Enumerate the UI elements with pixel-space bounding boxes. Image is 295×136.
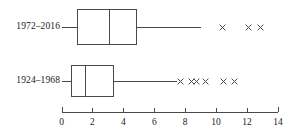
outlier-x-marker	[177, 78, 184, 85]
axis-tick-12	[247, 108, 248, 112]
whisker-right-2	[114, 81, 177, 82]
outlier-x-marker	[231, 78, 238, 85]
axis-tick-6	[154, 108, 155, 112]
box-2	[71, 65, 114, 97]
axis-tick-label-2: 2	[82, 117, 102, 127]
outlier-x-marker	[219, 24, 226, 31]
median-line-2	[85, 65, 86, 97]
outlier-x-marker	[202, 78, 209, 85]
axis-tick-label-4: 4	[113, 117, 133, 127]
whisker-right-1	[137, 27, 200, 28]
category-label-1972-2016: 1972–2016	[8, 21, 60, 31]
axis-tick-label-14: 14	[268, 117, 288, 127]
boxplot-chart: 1972–2016 1924–1968 02468101214	[0, 0, 295, 136]
median-line-1	[109, 9, 110, 45]
axis-tick-0	[62, 107, 63, 112]
axis-tick-2	[92, 108, 93, 112]
box-1	[77, 9, 137, 45]
outlier-x-marker	[245, 24, 252, 31]
outlier-x-marker	[220, 78, 227, 85]
axis-tick-label-8: 8	[175, 117, 195, 127]
axis-tick-label-10: 10	[206, 117, 226, 127]
axis-tick-8	[185, 108, 186, 112]
axis-tick-4	[123, 108, 124, 112]
label-connector-1	[62, 27, 77, 28]
axis-tick-label-12: 12	[237, 117, 257, 127]
outlier-x-marker	[257, 24, 264, 31]
axis-tick-label-0: 0	[52, 117, 72, 127]
axis-tick-10	[216, 108, 217, 112]
axis-tick-label-6: 6	[144, 117, 164, 127]
outlier-x-marker	[193, 78, 200, 85]
axis-baseline	[62, 112, 278, 113]
label-connector-2	[62, 81, 71, 82]
axis-tick-14	[278, 107, 279, 112]
category-label-1924-1968: 1924–1968	[8, 75, 60, 85]
